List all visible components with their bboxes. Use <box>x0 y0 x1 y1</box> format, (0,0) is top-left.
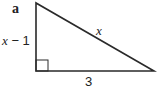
right-angle-marker <box>36 60 48 71</box>
vertical-leg-offset: − 1 <box>8 33 30 48</box>
triangle-outline <box>36 3 154 71</box>
base-label: 3 <box>85 75 92 88</box>
part-label: a <box>12 2 19 16</box>
vertical-leg-label: x − 1 <box>2 34 30 47</box>
hypotenuse-label: x <box>96 24 102 37</box>
